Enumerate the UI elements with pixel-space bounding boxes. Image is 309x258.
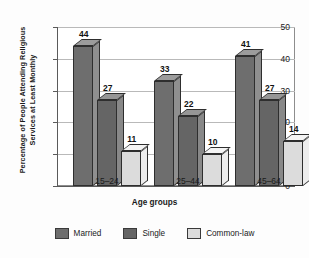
legend-swatch-common-law-icon xyxy=(187,228,201,239)
y-axis-title-line-1: Percentage of People Attending Religious xyxy=(18,27,29,174)
bar-married-45-64[interactable]: 41 xyxy=(235,56,255,186)
bar-value-label: 44 xyxy=(79,29,88,39)
y-tick-label-50: 50 xyxy=(272,22,290,32)
y-tick-mark-0 xyxy=(53,186,57,187)
y-tick-mark-20 xyxy=(53,122,57,123)
bar-value-label: 11 xyxy=(127,134,136,144)
legend-item-married[interactable]: Married xyxy=(55,228,102,239)
y-tick-mark-10 xyxy=(53,154,57,155)
bar-married-25-44[interactable]: 33 xyxy=(154,81,174,186)
bar-face xyxy=(235,56,255,186)
bar-side xyxy=(141,146,148,186)
legend-label-common-law: Common-law xyxy=(206,229,254,238)
x-tick-label-15-24: 15–24 xyxy=(77,176,137,186)
bar-value-label: 33 xyxy=(160,64,169,74)
y-axis-title: Percentage of People Attending Religious… xyxy=(16,10,40,190)
bar-face xyxy=(154,81,174,186)
bar-value-label: 41 xyxy=(241,39,250,49)
bar-face xyxy=(73,46,93,186)
bar-value-label: 14 xyxy=(289,124,298,134)
bar-single-45-64[interactable]: 27 xyxy=(259,100,279,186)
y-tick-label-40: 40 xyxy=(272,54,290,64)
bar-value-label: 10 xyxy=(208,137,217,147)
y-axis-line xyxy=(57,27,58,186)
bar-value-label: 27 xyxy=(103,83,112,93)
x-axis-title: Age groups xyxy=(0,198,309,207)
y-tick-mark-40 xyxy=(53,59,57,60)
bar-married-15-24[interactable]: 44 xyxy=(73,46,93,186)
chart-legend: Married Single Common-law xyxy=(0,228,309,239)
bar-value-label: 22 xyxy=(184,99,193,109)
legend-label-single: Single xyxy=(142,229,165,238)
legend-label-married: Married xyxy=(74,229,102,238)
chart-figure: Percentage of People Attending Religious… xyxy=(0,0,309,258)
x-tick-label-45-64: 45–64 xyxy=(239,176,299,186)
legend-swatch-married-icon xyxy=(55,228,69,239)
bar-face xyxy=(97,100,117,186)
legend-item-common-law[interactable]: Common-law xyxy=(187,228,254,239)
bar-value-label: 27 xyxy=(265,83,274,93)
bar-side xyxy=(303,136,309,186)
y-axis-title-line-2: Services at Least Monthly xyxy=(28,55,39,146)
bar-side xyxy=(222,149,229,186)
bar-face xyxy=(259,100,279,186)
bar-single-15-24[interactable]: 27 xyxy=(97,100,117,186)
legend-item-single[interactable]: Single xyxy=(123,228,165,239)
y-tick-mark-30 xyxy=(53,91,57,92)
gridline-50 xyxy=(57,27,295,28)
x-tick-label-25-44: 25–44 xyxy=(158,176,218,186)
plot-area: 50 40 30 20 10 0 44 27 11 xyxy=(57,27,295,186)
legend-swatch-single-icon xyxy=(123,228,137,239)
y-tick-mark-50 xyxy=(53,27,57,28)
